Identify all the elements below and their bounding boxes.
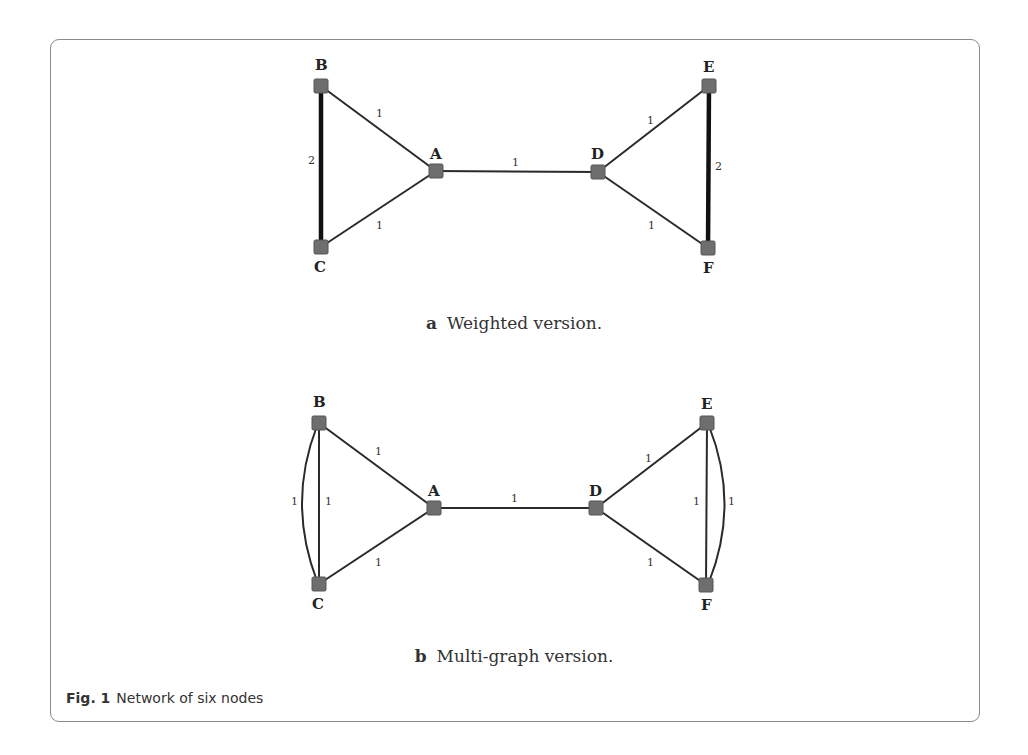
- node-label-e: E: [703, 58, 714, 76]
- subcaption-b-text: Multi-graph version.: [437, 646, 614, 666]
- panel-b-graph: 1 1 1 1 1 1 1 1 1 B A C D E F: [291, 393, 735, 614]
- edge-d-f: [598, 172, 708, 248]
- edge-label-a-d: 1: [511, 492, 518, 505]
- node-a: [427, 501, 441, 515]
- subcaption-a: aWeighted version.: [0, 313, 1028, 333]
- node-c: [314, 240, 328, 254]
- edge-label-b-a: 1: [376, 107, 383, 120]
- node-b: [314, 79, 328, 93]
- edge-label-d-f: 1: [648, 219, 655, 232]
- node-c: [312, 577, 326, 591]
- node-e: [700, 416, 714, 430]
- edge-label-d-e: 1: [647, 114, 654, 127]
- edge-label-a-d: 1: [512, 156, 519, 169]
- edge-label-c-a: 1: [376, 219, 383, 232]
- edge-e-f: [708, 86, 709, 248]
- node-label-f: F: [701, 596, 712, 614]
- node-label-a: A: [427, 482, 440, 500]
- edge-label-b-c-curved: 1: [291, 495, 298, 508]
- node-f: [701, 241, 715, 255]
- network-diagrams: 1 1 2 1 1 1 2 B A C D E F 1 1 1: [0, 0, 1028, 755]
- edge-c-a: [321, 171, 436, 247]
- edge-label-b-c-straight: 1: [325, 495, 332, 508]
- figure-caption: Fig. 1Network of six nodes: [66, 690, 263, 706]
- node-label-c: C: [314, 258, 326, 276]
- subcaption-b: bMulti-graph version.: [0, 646, 1028, 666]
- edge-e-f-straight: [706, 423, 707, 585]
- panel-a-graph: 1 1 2 1 1 1 2 B A C D E F: [308, 56, 722, 277]
- node-e: [702, 79, 716, 93]
- node-label-e: E: [701, 395, 712, 413]
- subcaption-a-text: Weighted version.: [447, 313, 602, 333]
- subcaption-a-letter: a: [426, 313, 437, 333]
- edge-b-a: [321, 86, 436, 171]
- edge-label-c-a: 1: [375, 556, 382, 569]
- edge-c-a: [319, 508, 434, 584]
- node-label-d: D: [589, 482, 602, 500]
- node-label-f: F: [703, 259, 714, 277]
- node-d: [591, 165, 605, 179]
- edge-label-e-f: 2: [715, 160, 722, 173]
- edge-d-e: [598, 86, 709, 172]
- edge-d-e: [596, 423, 707, 508]
- edge-a-d: [436, 171, 598, 172]
- edge-label-e-f-curved: 1: [728, 495, 735, 508]
- node-d: [589, 501, 603, 515]
- edge-label-d-f: 1: [647, 556, 654, 569]
- edge-d-f: [596, 508, 706, 585]
- edge-label-d-e: 1: [645, 452, 652, 465]
- node-label-a: A: [429, 145, 442, 163]
- edge-label-b-c: 2: [308, 154, 315, 167]
- node-a: [429, 164, 443, 178]
- edge-e-f-curved: [709, 426, 725, 582]
- node-label-b: B: [315, 56, 328, 74]
- edge-label-b-a: 1: [375, 445, 382, 458]
- node-label-b: B: [313, 393, 326, 411]
- node-label-d: D: [591, 145, 604, 163]
- node-label-c: C: [312, 595, 324, 613]
- subcaption-b-letter: b: [415, 646, 427, 666]
- edge-b-c-curved: [302, 426, 317, 581]
- figure-caption-text: Network of six nodes: [116, 690, 263, 706]
- edge-b-a: [319, 423, 434, 508]
- edge-label-e-f-straight: 1: [693, 495, 700, 508]
- node-b: [312, 416, 326, 430]
- figure-number: Fig. 1: [66, 690, 110, 706]
- node-f: [699, 578, 713, 592]
